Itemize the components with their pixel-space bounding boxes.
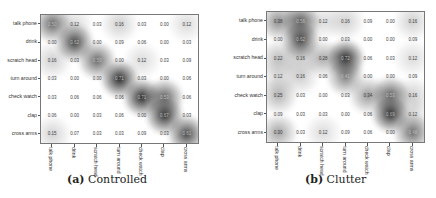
matrix-cell: 0.15 [41, 125, 63, 143]
matrix-cell: 0.03 [289, 105, 311, 124]
matrix-cell: 0.00 [153, 15, 175, 33]
matrix-cell: 0.00 [86, 33, 108, 51]
caption-label: (b) [305, 173, 323, 186]
matrix-cell: 0.03 [176, 33, 198, 51]
row-label: cross arms [12, 130, 40, 136]
matrix-cell: 0.62 [289, 31, 311, 50]
matrix-cell: 0.00 [312, 31, 334, 50]
matrix-cell: 0.09 [334, 123, 356, 142]
row-label: turn around [10, 75, 40, 81]
column-label: clap [160, 147, 166, 157]
matrix-cell: 0.03 [131, 70, 153, 88]
column-label: clap [386, 146, 392, 156]
matrix-cell: 0.06 [86, 88, 108, 106]
matrix-cell: 0.50 [41, 15, 63, 33]
matrix-cell: 0.12 [176, 15, 198, 33]
row-label: cross arms [238, 129, 266, 135]
row-label: scratch head [7, 57, 40, 63]
matrix-cell: 0.16 [402, 86, 424, 105]
row-label: drink [26, 38, 40, 44]
column-label: check watch [364, 146, 370, 175]
column-label: turn around [342, 146, 348, 173]
matrix-cell: 0.00 [63, 70, 85, 88]
matrix-cell: 0.00 [379, 12, 401, 31]
matrix-cell: 0.00 [334, 105, 356, 124]
matrix-cell: 0.00 [86, 70, 108, 88]
matrix-cell: 0.22 [267, 49, 289, 68]
matrix-cell: 0.00 [379, 123, 401, 142]
matrix-cell: 0.16 [289, 49, 311, 68]
row-label: talk phone [13, 20, 40, 26]
matrix-cell: 0.00 [379, 68, 401, 87]
matrix-cell: 0.06 [63, 88, 85, 106]
matrix-cell: 0.03 [41, 88, 63, 106]
matrix-cell: 0.06 [131, 33, 153, 51]
matrix-cell: 0.03 [289, 123, 311, 142]
matrix-cell: 0.28 [312, 49, 334, 68]
matrix-cell: 0.16 [334, 12, 356, 31]
matrix-cell: 0.16 [108, 15, 130, 33]
matrix-cell: 0.06 [41, 106, 63, 124]
matrix-cell: 0.72 [334, 49, 356, 68]
column-label: cross arms [183, 147, 189, 172]
matrix-cell: 0.09 [176, 52, 198, 70]
matrix-cell: 0.69 [379, 105, 401, 124]
matrix-cell: 0.00 [41, 33, 63, 51]
matrix-cell: 0.06 [108, 88, 130, 106]
matrix-cell: 0.16 [402, 12, 424, 31]
row-label: check watch [234, 92, 266, 98]
matrix-cell: 0.00 [153, 33, 175, 51]
column-label: talk phone [48, 147, 54, 171]
column-label: scratch head [319, 146, 325, 176]
matrix-cell: 0.03 [41, 70, 63, 88]
matrix-cell: 0.06 [357, 49, 379, 68]
caption-text: Controlled [88, 173, 147, 186]
matrix-cell: 0.00 [267, 31, 289, 50]
row-label: clap [253, 110, 266, 116]
matrix-cell: 0.03 [153, 125, 175, 143]
matrix-cell: 0.71 [131, 88, 153, 106]
matrix-cell: 0.06 [312, 68, 334, 87]
matrix-cell: 0.03 [63, 52, 85, 70]
matrix-cell: 0.12 [267, 68, 289, 87]
caption-label: (a) [67, 173, 85, 186]
matrix-cell: 0.03 [334, 86, 356, 105]
matrix-cell: 0.38 [267, 12, 289, 31]
column-label: cross arms [409, 146, 415, 171]
matrix-cell: 0.09 [402, 68, 424, 87]
matrix-cell: 0.30 [267, 123, 289, 142]
matrix-cell: 0.06 [357, 123, 379, 142]
matrix-cell: 0.03 [153, 52, 175, 70]
matrix-cell: 0.03 [86, 125, 108, 143]
matrix-cell: 0.48 [402, 123, 424, 142]
matrix-cell: 0.41 [334, 68, 356, 87]
row-label: check watch [8, 93, 40, 99]
matrix-cell: 0.09 [267, 105, 289, 124]
matrix-cell: 0.09 [357, 12, 379, 31]
matrix-cell: 0.06 [176, 88, 198, 106]
matrix-cell: 0.25 [267, 86, 289, 105]
matrix-cell: 0.12 [312, 123, 334, 142]
row-label: scratch head [233, 54, 266, 60]
column-label: drink [297, 146, 303, 157]
matrix-cell: 0.12 [312, 12, 334, 31]
matrix-cell: 0.00 [108, 52, 130, 70]
column-label: turn around [116, 147, 122, 174]
caption-text: Clutter [327, 173, 367, 186]
matrix-cell: 0.03 [108, 125, 130, 143]
matrix-cell: 0.56 [289, 12, 311, 31]
row-label: clap [27, 112, 40, 118]
column-label: drink [71, 147, 77, 158]
matrix-cell: 0.12 [63, 15, 85, 33]
matrix-cell: 0.00 [312, 86, 334, 105]
matrix-cell: 0.50 [86, 52, 108, 70]
matrix-cell: 0.16 [289, 68, 311, 87]
panel-clutter: 0.380.560.120.160.090.000.160.000.620.00… [218, 0, 436, 198]
matrix-cell: 0.71 [108, 70, 130, 88]
matrix-cell: 0.03 [86, 106, 108, 124]
caption-controlled: (a) Controlled [67, 173, 147, 186]
matrix-cell: 0.03 [131, 15, 153, 33]
matrix-cell: 0.06 [176, 70, 198, 88]
matrix-cell: 0.06 [357, 105, 379, 124]
row-label: turn around [236, 73, 266, 79]
